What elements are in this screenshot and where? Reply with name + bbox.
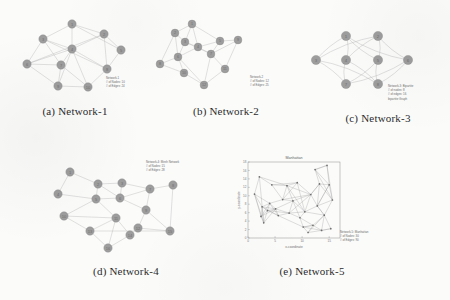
chart-edge [254, 194, 262, 207]
chart-point [299, 217, 301, 219]
annotation-line: # of Edges: 25 [250, 83, 269, 87]
x-tick-label: 0 [247, 239, 249, 243]
y-tick-label: 4 [245, 219, 247, 223]
chart-edge [311, 195, 317, 206]
chart-point [288, 212, 290, 214]
chart-edge [297, 183, 311, 195]
chart-point [328, 184, 330, 186]
chart-point [332, 199, 334, 201]
chart-edge [305, 212, 324, 215]
graph-edge [316, 36, 346, 60]
graph-edge [27, 34, 104, 64]
chart-point [330, 228, 332, 230]
chart-point [323, 214, 325, 216]
network-2-annotation: Network-2 # of Nodes: 12 # of Edges: 25 [250, 75, 269, 88]
chart-point [316, 205, 318, 207]
chart-edge [293, 201, 305, 212]
chart-edge [259, 177, 271, 185]
chart-edge [308, 230, 322, 232]
network-3-annotation: Network-3: Bipartite # of nodes: 8 # of … [388, 84, 413, 101]
graph-edge [72, 49, 88, 87]
chart-point [271, 184, 273, 186]
graph-edge [104, 34, 107, 69]
graph-edge [316, 60, 346, 84]
chart-point [292, 200, 294, 202]
graph-node-label: 10 [86, 85, 91, 90]
chart-edge [322, 229, 331, 231]
network-2-svg: 123456789101112 [152, 2, 300, 102]
chart-edge [272, 185, 283, 200]
annotation-line: # of Edges: 90 [340, 238, 368, 242]
chart-edge [308, 225, 313, 232]
graph-node-label: 11 [223, 67, 227, 71]
edge-layer [58, 172, 173, 248]
chart-point [261, 206, 263, 208]
graph-edge [58, 194, 96, 199]
network-5-chart: 051015024681012141618Manhattanx-coordina… [222, 152, 402, 262]
graph-edge [61, 65, 88, 87]
graph-edge [192, 24, 220, 41]
chart-edge [317, 206, 324, 215]
edge-layer [316, 36, 408, 84]
node-layer: 12345678 [311, 31, 412, 88]
graph-node-label: 10 [182, 71, 186, 75]
chart-point [260, 216, 262, 218]
network-5-svg: 051015024681012141618Manhattanx-coordina… [222, 152, 402, 262]
graph-edge [146, 210, 170, 231]
graph-node-label: 9 [237, 38, 239, 42]
node-layer: 123456789101112 [156, 20, 242, 89]
chart-point [321, 230, 323, 232]
graph-edge [225, 40, 238, 69]
graph-edge [43, 39, 72, 49]
graph-node-label: 1 [191, 22, 193, 26]
chart-point [302, 226, 304, 228]
chart-point [254, 193, 256, 195]
graph-edge [43, 24, 72, 39]
panel-network-4: 12345678910111213141516 Network-4: Mesh … [46, 158, 206, 263]
y-tick-label: 16 [243, 169, 247, 173]
graph-edge [64, 216, 116, 218]
network-4-graph: 12345678910111213141516 [46, 158, 206, 263]
chart-point [304, 211, 306, 213]
chart-edge [287, 186, 311, 195]
chart-edge [283, 200, 293, 201]
chart-edge [283, 183, 298, 200]
chart-point [296, 182, 298, 184]
graph-node-label: 16 [106, 246, 111, 251]
chart-point [312, 224, 314, 226]
graph-node-label: 12 [136, 226, 141, 231]
caption-network-3: (c) Network-3 [306, 112, 450, 124]
x-tick-label: 15 [327, 239, 331, 243]
chart-edge-layer [254, 165, 332, 232]
network-2-graph: 123456789101112 [152, 2, 300, 102]
network-1-svg: 12345678910 [0, 2, 150, 102]
y-tick-label: 12 [243, 185, 247, 189]
chart-point [259, 176, 261, 178]
y-tick-label: 2 [245, 228, 247, 232]
x-axis-label: x-coordinate [285, 245, 303, 249]
y-axis-label: y-coordinate [237, 191, 241, 209]
chart-title: Manhattan [286, 156, 303, 160]
graph-edge [64, 199, 96, 216]
graph-edge [211, 40, 238, 54]
panel-network-3: 12345678 Network-3: Bipartite # of nodes… [306, 16, 450, 106]
graph-edge [138, 228, 170, 231]
chart-edge [283, 186, 287, 200]
chart-edge [278, 213, 289, 216]
chart-edge [300, 212, 305, 218]
chart-edge [267, 211, 289, 214]
chart-edge [327, 165, 332, 200]
graph-node-label: 13 [88, 229, 93, 234]
annotation-line: bipartite Graph [388, 97, 413, 101]
panel-network-2: 123456789101112 Network-2 # of Nodes: 12… [152, 2, 300, 102]
chart-edge [317, 200, 332, 206]
chart-edge [300, 218, 313, 226]
axes-frame [248, 162, 340, 238]
caption-network-2: (b) Network-2 [152, 105, 300, 117]
network-1-graph: 12345678910 [0, 2, 150, 102]
graph-node-label: 5 [219, 39, 221, 43]
y-tick-label: 14 [243, 177, 247, 181]
graph-edge [72, 34, 104, 49]
figure-network-examples: 12345678910 Network-1 # of Nodes: 10 # o… [0, 0, 450, 300]
graph-edge [27, 64, 58, 86]
